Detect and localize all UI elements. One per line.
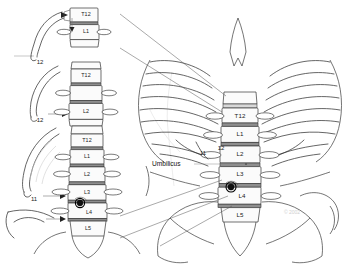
copyright-watermark: © 2002 [284,209,300,215]
panel-1-twelfth-rib-at-T12-L1: 12 T12 L1 [14,8,111,65]
torso-vertebra-label-L4: L4 [238,192,246,199]
panel-2-rib-label: 12 [37,117,44,123]
torso-vertebra-label-L2: L2 [236,150,244,157]
panel-2-vertebra-label-T12: T12 [81,72,91,78]
panel-3-eleventh-rib-and-crest: 11 T12 L1 L2 [6,126,140,258]
panel-2-vertebra-L1 [70,86,102,101]
panel-3-vertebra-label-L1: L1 [84,153,90,159]
torso-vertebra-label-T12: T12 [235,112,246,119]
torso-vertebra-label-L3: L3 [236,170,244,177]
panel-3-vertebra-label-T12: T12 [82,137,92,143]
panel-3-rib-label: 11 [31,196,38,202]
panel-1-rib-label: 12 [37,59,44,65]
panel-1-vertebra-label-T12: T12 [81,11,91,17]
torso-vertebra-label-L5: L5 [236,211,244,218]
body-outline-ghost [150,72,180,186]
torso-vertebra-label-L1: L1 [236,130,244,137]
panel-1-vertebra-label-L1: L1 [83,28,89,34]
panel-1-rib-arrowhead [61,12,68,18]
anatomy-illustration: T12 L1 L2 L3 L4 [0,0,351,270]
panel-3-vertebra-label-L3: L3 [84,189,90,195]
torso-rib-label-12: 12 [218,145,225,151]
panel-3-vertebra-label-L2: L2 [84,171,90,177]
umbilicus-label: Umbilicus [152,160,181,167]
torso-rib-label-11: 11 [200,150,207,156]
panel-3-vertebra-label-L4: L4 [86,209,92,215]
panel-2-twelfth-rib-at-L2: 12 T12 L2 [30,62,118,126]
panel-3-level-arrowhead-L4 [60,216,66,222]
torso-lumbar-spine: T12 L1 L2 L3 L4 [199,92,281,256]
panel-3-vertebra-label-L5: L5 [85,225,91,231]
panel-leader-lines [120,14,232,246]
figure-canvas: T12 L1 L2 L3 L4 [0,0,351,270]
panel-2-vertebra-label-L2: L2 [83,108,89,114]
